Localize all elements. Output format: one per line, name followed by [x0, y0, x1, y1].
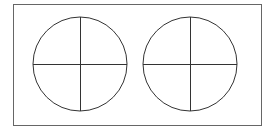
quartered-circle-left	[33, 17, 127, 111]
quartered-circle-right	[143, 17, 237, 111]
diagram-canvas	[0, 0, 269, 129]
